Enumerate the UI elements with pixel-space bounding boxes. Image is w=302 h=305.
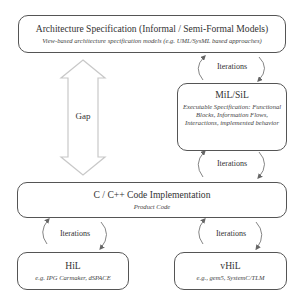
hil-subtitle: e.g. IPG Carmaker, dSPACE bbox=[18, 274, 128, 282]
mil-sil-box: MiL/SiL Executable Specification: Functi… bbox=[177, 83, 287, 151]
mil-sil-subtitle: Executable Specification: Functional Blo… bbox=[182, 103, 282, 128]
vhil-title: vHiL bbox=[175, 260, 286, 272]
architecture-subtitle: View-based architecture specification mo… bbox=[19, 37, 285, 45]
code-title: C / C++ Code Implementation bbox=[18, 189, 286, 201]
code-implementation-box: C / C++ Code Implementation Product Code bbox=[17, 182, 287, 218]
hil-title: HiL bbox=[18, 260, 128, 272]
gap-label: Gap bbox=[68, 111, 98, 121]
code-subtitle: Product Code bbox=[18, 203, 286, 211]
iterations-label-1: Iterations bbox=[206, 62, 258, 71]
mil-sil-title: MiL/SiL bbox=[182, 89, 282, 101]
hil-box: HiL e.g. IPG Carmaker, dSPACE bbox=[17, 252, 129, 290]
iterations-label-2: Iterations bbox=[206, 159, 258, 168]
iterations-label-4: Iterations bbox=[205, 229, 257, 238]
architecture-spec-box: Architecture Specification (Informal / S… bbox=[18, 15, 286, 53]
iterations-label-3: Iterations bbox=[49, 229, 101, 238]
vhil-subtitle: e.g., gem5, SystemC/TLM bbox=[175, 274, 286, 282]
architecture-title: Architecture Specification (Informal / S… bbox=[19, 23, 285, 35]
vhil-box: vHiL e.g., gem5, SystemC/TLM bbox=[174, 252, 287, 290]
